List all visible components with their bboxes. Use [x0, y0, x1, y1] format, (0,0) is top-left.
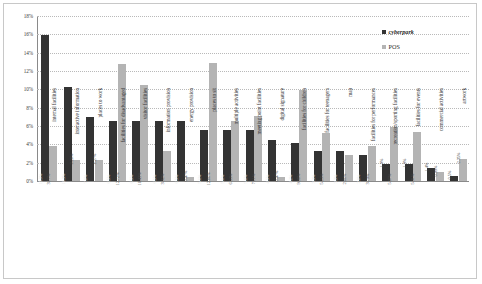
y-axis-tick-label: 14%: [5, 50, 33, 56]
bar-value-label: 1.4%: [423, 163, 431, 172]
x-axis-label-text: interactive information: [74, 88, 80, 184]
y-axis-tick-label: 12%: [5, 68, 33, 74]
x-axis-label-text: information provision: [165, 88, 171, 184]
legend-label-cyberpark: cyberpark: [389, 28, 414, 35]
bar-value-label: 4.5%: [264, 175, 272, 184]
x-axis-label-text: facilities for events: [415, 88, 421, 184]
bar-value-label: 7.0%: [82, 175, 90, 184]
chart-container: 18%16%14%12%10%8%6%4%2%0% 15.9%3.77%10.3…: [3, 3, 477, 279]
bar-value-label: 3.3%: [310, 175, 318, 184]
y-axis-line: [37, 16, 38, 181]
bar-value-label: 6.5%: [173, 175, 181, 184]
bar-value-label: 3.3%: [332, 175, 340, 184]
bar-value-label: 5.6%: [242, 175, 250, 184]
x-axis-label-text: internal facilities: [51, 88, 57, 184]
x-axis-label-text: commercial activities: [438, 88, 444, 184]
x-axis-label-text: artwork: [461, 88, 467, 184]
bar-value-label: 6.5%: [128, 175, 136, 184]
bar-value-label: 6.5%: [105, 175, 113, 184]
legend-item-pos: POS: [382, 43, 414, 50]
legend-swatch-cyberpark: [382, 30, 386, 34]
x-axis-label-text: recreation/sporting facilities: [392, 88, 398, 184]
bar-value-label: 5.6%: [196, 175, 204, 184]
bar-value-label: 0.5%: [446, 171, 454, 180]
bar-value-label: 1.9%: [378, 158, 386, 167]
y-axis-tick-label: 16%: [5, 31, 33, 37]
bar-value-label: 5.6%: [219, 175, 227, 184]
bar-value-label: 2.8%: [355, 175, 363, 184]
legend-label-pos: POS: [389, 43, 400, 50]
x-axis-label-text: digital signature: [279, 88, 285, 184]
y-axis-tick-label: 10%: [5, 86, 33, 92]
x-axis-category-labels: internal facilitiesinteractive informati…: [37, 184, 469, 284]
y-axis-tick-label: 0%: [5, 178, 33, 184]
bar[interactable]: 7.0%: [86, 117, 94, 181]
x-axis-label-text: facilities for teenagers: [324, 88, 330, 184]
bar[interactable]: 0.5%: [450, 176, 458, 181]
bar-value-label: 15.9%: [37, 174, 45, 185]
y-axis-tick-label: 4%: [5, 141, 33, 147]
y-axis-tick-label: 6%: [5, 123, 33, 129]
x-axis-label-text: facilities for disadvantaged: [120, 88, 126, 184]
x-axis-label-text: map: [347, 88, 353, 184]
x-axis-label-text: multiple activities: [233, 88, 239, 184]
y-axis-tick-label: 2%: [5, 160, 33, 166]
x-axis-label-text: places to work: [97, 88, 103, 184]
bar-value-label: 1.9%: [401, 158, 409, 167]
chart-legend: cyberpark POS: [382, 28, 414, 58]
x-axis-label-text: places to sit: [211, 88, 217, 184]
bar-value-label: 10.3%: [60, 174, 68, 185]
x-axis-label-text: facilities for performances: [370, 88, 376, 184]
bar-value-label: 4.2%: [287, 175, 295, 184]
bar-value-label: 6.5%: [151, 175, 159, 184]
legend-swatch-pos: [382, 45, 386, 49]
bar[interactable]: 10.3%: [64, 87, 72, 181]
bar[interactable]: 15.9%: [41, 35, 49, 181]
legend-item-cyberpark: cyberpark: [382, 28, 414, 35]
x-axis-label-text: energy provision: [188, 88, 194, 184]
x-axis-label-text: visitor facilities: [142, 88, 148, 184]
x-axis-label-text: facilities for children: [301, 88, 307, 184]
y-axis-tick-label: 8%: [5, 105, 33, 111]
x-axis-label-text: meeting point facilities: [256, 88, 262, 184]
y-axis-tick-label: 18%: [5, 13, 33, 19]
bar[interactable]: 6.5%: [155, 121, 163, 181]
